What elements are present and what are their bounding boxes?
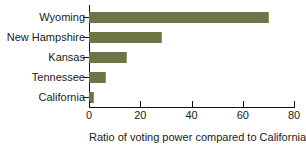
plot-area: [89, 5, 294, 107]
x-axis-tick-label-20: 20: [134, 110, 146, 121]
x-axis-tick-label-40: 40: [185, 110, 197, 121]
x-axis-tick-label-80: 80: [288, 110, 300, 121]
x-axis-tick-label-60: 60: [237, 110, 249, 121]
x-axis-tick-80: [294, 101, 295, 108]
y-axis-label-california: California: [39, 92, 85, 103]
x-axis-title: Ratio of voting power compared to Califo…: [89, 131, 294, 143]
x-axis-tick-60: [243, 101, 244, 108]
x-axis-tick-20: [140, 101, 141, 108]
bar-tennessee: [89, 72, 106, 83]
x-axis-tick-label-0: 0: [86, 110, 92, 121]
y-axis-label-kansas: Kansas: [48, 52, 85, 63]
bar-new-hampshire: [89, 32, 162, 43]
x-axis-tick-0: [89, 101, 90, 108]
bar-kansas: [89, 52, 127, 63]
y-axis-label-wyoming: Wyoming: [39, 12, 85, 23]
y-axis-label-new-hampshire: New Hampshire: [7, 32, 85, 43]
bar-chart: Wyoming New Hampshire Kansas Tennessee C…: [0, 0, 306, 146]
bar-wyoming: [89, 12, 269, 23]
y-axis-label-tennessee: Tennessee: [32, 72, 85, 83]
x-axis-tick-40: [192, 101, 193, 108]
